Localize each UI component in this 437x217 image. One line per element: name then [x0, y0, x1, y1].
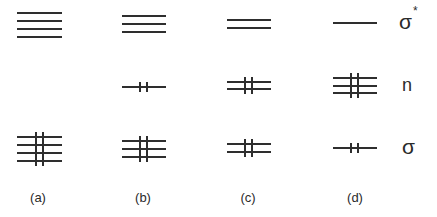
n-label: n [402, 76, 412, 94]
column-d-sigma-levels [333, 143, 377, 153]
column-b-sigma-star-levels [122, 16, 166, 32]
orbital-diagram [0, 0, 437, 217]
n-symbol: n [402, 75, 412, 95]
column-a-sigma-star-levels [17, 13, 62, 37]
column-d-n-levels [333, 73, 377, 98]
sigma-star-label: σ* [399, 11, 418, 32]
column-b-n-levels [122, 82, 166, 92]
column-c-sigma-levels [227, 139, 271, 157]
column-d [333, 23, 377, 153]
column-a [17, 13, 62, 166]
column-c [227, 20, 271, 157]
sigma-star-superscript: * [413, 4, 418, 18]
column-c-sigma-star-levels [227, 20, 271, 28]
sigma-symbol: σ [402, 135, 415, 158]
column-d-label: (d) [347, 190, 363, 205]
column-b-sigma-levels [122, 136, 166, 162]
column-a-sigma-levels [17, 132, 62, 166]
sigma-star-symbol: σ [399, 10, 412, 33]
column-b-label: (b) [135, 190, 151, 205]
column-b [122, 16, 166, 162]
column-c-n-levels [227, 77, 271, 94]
sigma-label: σ [402, 136, 415, 157]
column-a-label: (a) [30, 190, 46, 205]
column-c-label: (c) [240, 190, 255, 205]
